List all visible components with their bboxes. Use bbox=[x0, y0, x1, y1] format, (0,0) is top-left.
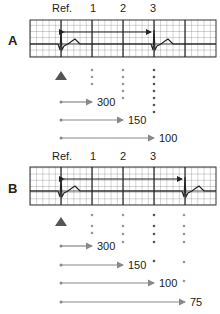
reference-marker-icon bbox=[55, 71, 67, 80]
col-label-1: 1 bbox=[90, 150, 96, 162]
col-label-3: 3 bbox=[150, 150, 156, 162]
rate-label-300: 300 bbox=[97, 96, 115, 108]
col-label-3: 3 bbox=[150, 2, 156, 14]
panel-a: A Ref. 1 2 3 bbox=[8, 2, 216, 144]
panel-a-label: A bbox=[8, 33, 18, 48]
col-label-2: 2 bbox=[120, 2, 126, 14]
rate-label-150: 150 bbox=[128, 114, 146, 126]
rate-label-75: 75 bbox=[190, 296, 202, 308]
rate-label-100: 100 bbox=[159, 277, 177, 289]
rate-label-150: 150 bbox=[128, 259, 146, 271]
col-label-1: 1 bbox=[90, 2, 96, 14]
rate-label-100: 100 bbox=[159, 132, 177, 144]
reference-marker-icon bbox=[55, 217, 67, 226]
rate-arrows-b bbox=[60, 245, 186, 304]
ecg-strip-b bbox=[30, 167, 216, 205]
heart-rate-diagram: A Ref. 1 2 3 bbox=[0, 0, 220, 314]
panel-b: B Ref. 1 2 3 bbox=[8, 150, 216, 308]
panel-b-label: B bbox=[8, 181, 17, 196]
col-label-2: 2 bbox=[120, 150, 126, 162]
col-label-ref: Ref. bbox=[52, 150, 72, 162]
ecg-strip-a bbox=[30, 20, 216, 57]
col-label-ref: Ref. bbox=[52, 2, 72, 14]
rate-label-300: 300 bbox=[97, 240, 115, 252]
